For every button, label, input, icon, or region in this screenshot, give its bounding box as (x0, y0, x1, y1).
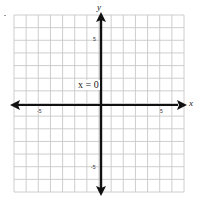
y-axis-label: y (97, 3, 101, 12)
y-tick-label-neg5: -5 (91, 165, 95, 170)
grid-lines (14, 15, 184, 192)
y-tick-label-5: 5 (93, 37, 96, 42)
x-tick-label-neg5: -5 (37, 109, 41, 114)
x-axis-label: x (189, 99, 193, 108)
line-annotation-x-equals-0: x = 0 (77, 80, 100, 90)
axes (10, 12, 187, 196)
coordinate-plane (0, 0, 203, 212)
x-tick-label-5: 5 (160, 109, 163, 114)
x-axis-right-arrow-icon (177, 100, 187, 110)
